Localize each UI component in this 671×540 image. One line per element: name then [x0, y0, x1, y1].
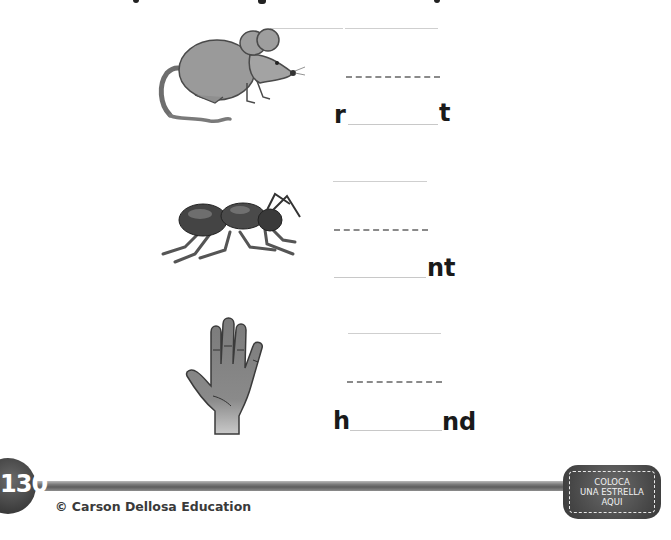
- footer-bar: [25, 481, 585, 491]
- copyright-text: © Carson Dellosa Education: [55, 499, 251, 514]
- ant-top-guide-line: [333, 181, 427, 182]
- rat-top-guide-line: [345, 28, 438, 29]
- hand-mid-dashed-line: [347, 381, 442, 383]
- rat-answer-blank[interactable]: [348, 124, 438, 125]
- badge-line-1: COLOCA: [594, 477, 630, 487]
- rat-mid-dashed-line: [346, 76, 440, 78]
- hand-answer-blank[interactable]: [350, 430, 442, 431]
- ant-icon: [155, 192, 305, 267]
- hand-top-guide-line: [348, 333, 441, 334]
- ant-suffix-letters: nt: [427, 256, 456, 280]
- rat-icon: [155, 25, 300, 125]
- hand-icon: [185, 316, 270, 434]
- hand-suffix-letters: nd: [442, 410, 476, 434]
- place-star-badge: COLOCA UNA ESTRELLA AQUI: [563, 465, 661, 519]
- ant-answer-blank[interactable]: [334, 277, 426, 278]
- star-badge-dashed-border: COLOCA UNA ESTRELLA AQUI: [569, 471, 655, 513]
- ant-mid-dashed-line: [334, 229, 428, 231]
- badge-line-2: UNA ESTRELLA: [580, 487, 644, 497]
- page-number: 130: [0, 472, 47, 496]
- rat-suffix-letters: t: [439, 101, 450, 125]
- rat-prefix-letter: r: [334, 103, 346, 127]
- hand-prefix-letter: h: [333, 409, 350, 433]
- badge-line-3: AQUI: [601, 497, 622, 507]
